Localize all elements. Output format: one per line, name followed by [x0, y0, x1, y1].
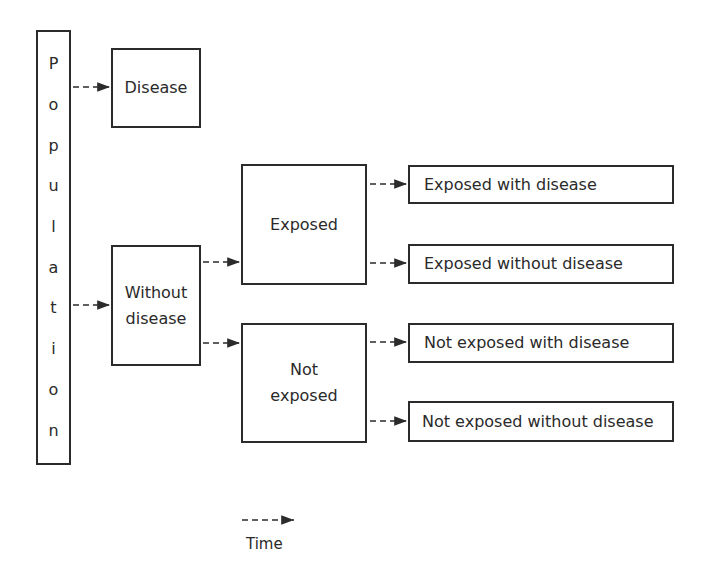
not-exposed-without-disease-label: Not exposed without disease: [422, 409, 654, 435]
exposed-without-disease-label: Exposed without disease: [424, 251, 623, 277]
population-letter: u: [48, 177, 58, 195]
population-letter: o: [49, 381, 59, 399]
exposed-without-disease-box: Exposed without disease: [408, 244, 674, 284]
not-exposed-with-disease-label: Not exposed with disease: [424, 330, 629, 356]
population-letter: l: [51, 218, 55, 236]
exposed-with-disease-label: Exposed with disease: [424, 172, 597, 198]
population-box: P o p u l a t i o n: [36, 30, 71, 465]
exposed-with-disease-box: Exposed with disease: [408, 165, 674, 204]
without-disease-label-1: Without: [125, 280, 188, 306]
time-legend-label: Time: [246, 535, 283, 553]
population-letter: t: [50, 299, 56, 317]
disease-box: Disease: [111, 48, 201, 128]
population-letter: a: [49, 259, 59, 277]
population-letter: p: [48, 137, 58, 155]
not-exposed-label-2: exposed: [270, 383, 337, 409]
dashed-arrows: [0, 0, 711, 580]
population-letter: i: [51, 340, 55, 358]
population-letter: P: [49, 55, 59, 73]
exposed-box: Exposed: [241, 164, 367, 285]
exposed-label: Exposed: [270, 212, 338, 238]
not-exposed-box: Not exposed: [241, 323, 367, 443]
disease-label: Disease: [125, 75, 188, 101]
population-letter: n: [48, 422, 58, 440]
population-letter: o: [49, 96, 59, 114]
not-exposed-with-disease-box: Not exposed with disease: [408, 323, 674, 363]
without-disease-label-2: disease: [126, 306, 187, 332]
not-exposed-without-disease-box: Not exposed without disease: [408, 401, 674, 442]
without-disease-box: Without disease: [111, 245, 201, 366]
not-exposed-label-1: Not: [290, 357, 318, 383]
